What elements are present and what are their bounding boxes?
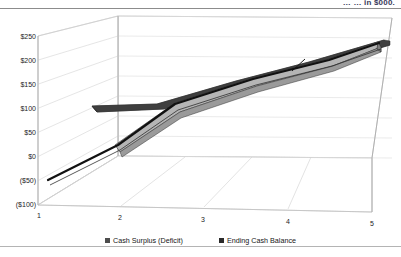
y-tick-50: $50 bbox=[2, 129, 36, 137]
legend-swatch-ending-cash-balance bbox=[219, 238, 224, 243]
legend-label-ending-cash-balance: Ending Cash Balance bbox=[227, 236, 296, 245]
legend-swatch-cash-surplus bbox=[105, 238, 110, 243]
legend-item-cash-surplus[interactable]: Cash Surplus (Deficit) bbox=[105, 236, 183, 245]
y-tick-100: $100 bbox=[2, 105, 36, 113]
y-tick-250: $250 bbox=[2, 33, 36, 41]
plot-area bbox=[0, 0, 401, 232]
chart-container: … … in $000, bbox=[0, 0, 401, 257]
y-tick-0: $0 bbox=[2, 153, 36, 161]
x-tick-4: 4 bbox=[281, 218, 295, 226]
y-tick-200: $200 bbox=[2, 57, 36, 65]
x-tick-5: 5 bbox=[365, 220, 379, 228]
bottom-divider-rule bbox=[0, 246, 401, 247]
y-tick-neg100: ($100) bbox=[0, 201, 36, 209]
y-tick-150: $150 bbox=[2, 81, 36, 89]
y-tick-neg50: ($50) bbox=[2, 177, 36, 185]
legend-item-ending-cash-balance[interactable]: Ending Cash Balance bbox=[219, 236, 296, 245]
x-tick-2: 2 bbox=[113, 214, 127, 222]
chart-legend: Cash Surplus (Deficit) Ending Cash Balan… bbox=[0, 236, 401, 245]
x-tick-3: 3 bbox=[196, 216, 210, 224]
legend-label-cash-surplus: Cash Surplus (Deficit) bbox=[113, 236, 183, 245]
x-tick-1: 1 bbox=[32, 212, 46, 220]
